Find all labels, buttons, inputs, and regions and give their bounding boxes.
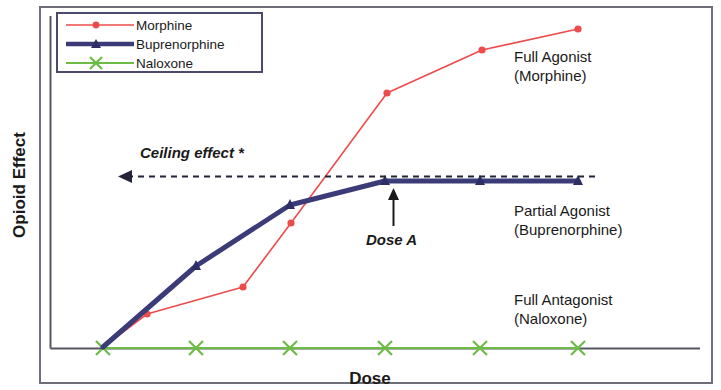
series-buprenorphine — [103, 175, 583, 347]
full-antagonist-label-line2: (Naloxone) — [514, 310, 587, 327]
morphine-marker-point — [287, 219, 294, 226]
ceiling-effect-arrowhead-icon — [118, 170, 132, 183]
legend-label-morphine: Morphine — [136, 18, 192, 33]
y-axis-title: Opioid Effect — [10, 132, 29, 238]
partial-agonist-label-line2: (Buprenorphine) — [514, 221, 622, 238]
ceiling-effect-annotation: Ceiling effect * — [118, 144, 600, 183]
legend-item-naloxone[interactable]: Naloxone — [58, 53, 261, 73]
morphine-marker-point — [574, 25, 581, 32]
legend-swatch-buprenorphine — [64, 35, 136, 53]
dose-a-label: Dose A — [366, 231, 417, 248]
buprenorphine-legend-line-icon — [64, 37, 136, 51]
full-agonist-label-line1: Full Agonist — [514, 48, 592, 65]
partial-agonist-callout: Partial Agonist (Buprenorphine) — [514, 202, 622, 238]
legend-swatch-morphine — [64, 16, 136, 34]
chart-legend: Morphine Buprenorphine Naloxone — [56, 12, 263, 73]
full-agonist-label-line2: (Morphine) — [514, 67, 587, 84]
buprenorphine-line — [103, 181, 578, 347]
ceiling-effect-label: Ceiling effect * — [140, 144, 245, 161]
naloxone-legend-line-icon — [64, 56, 136, 70]
legend-item-morphine[interactable]: Morphine — [58, 15, 261, 35]
legend-swatch-naloxone — [64, 54, 136, 72]
full-antagonist-callout: Full Antagonist (Naloxone) — [514, 291, 613, 327]
morphine-marker-point — [478, 46, 485, 53]
morphine-marker-point — [383, 89, 390, 96]
series-morphine — [103, 25, 582, 347]
full-antagonist-label-line1: Full Antagonist — [514, 291, 613, 308]
x-axis-title: Dose — [349, 369, 391, 388]
legend-label-naloxone: Naloxone — [136, 56, 193, 71]
partial-agonist-label-line1: Partial Agonist — [514, 202, 611, 219]
morphine-line — [103, 29, 578, 347]
dose-a-arrowhead-icon — [388, 188, 399, 200]
legend-item-buprenorphine[interactable]: Buprenorphine — [58, 34, 261, 54]
morphine-legend-line-icon — [64, 18, 136, 32]
full-agonist-callout: Full Agonist (Morphine) — [514, 48, 592, 84]
legend-label-buprenorphine: Buprenorphine — [136, 37, 225, 52]
series-naloxone — [96, 341, 585, 355]
morphine-marker-point — [239, 283, 246, 290]
dose-a-annotation: Dose A — [366, 188, 417, 248]
